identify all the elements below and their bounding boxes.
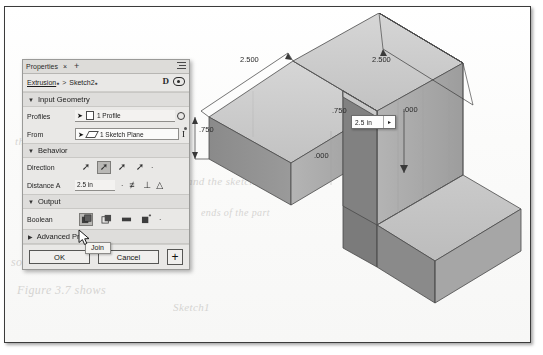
direction-asymmetric-icon[interactable]: ➚ [133, 161, 147, 174]
direction-symmetric-icon[interactable]: ➚ [115, 161, 129, 174]
cursor-icon: ➤ [78, 131, 84, 138]
breadcrumb: Extrusion● > Sketch2● D [23, 74, 189, 92]
chevron-down-icon[interactable]: ▼ [28, 148, 34, 154]
profiles-field[interactable]: ➤ 1 Profile [75, 110, 175, 122]
direction-one-side-icon[interactable]: ➚ [79, 161, 93, 174]
boolean-new-body-icon[interactable] [139, 213, 153, 226]
boolean-option-group[interactable]: · [75, 213, 185, 226]
boolean-join-icon[interactable] [79, 213, 93, 226]
row-label-distance-a: Distance A [27, 182, 75, 189]
from-status-dot [184, 127, 187, 130]
visibility-eye-icon[interactable] [173, 77, 185, 86]
text-cursor-icon[interactable]: I [182, 130, 185, 139]
ok-button[interactable]: OK [29, 250, 90, 264]
dimension-label-bottom-origin[interactable]: .000 [314, 151, 329, 160]
section-label-advanced-properties: Advanced Pro [37, 232, 84, 241]
row-label-direction: Direction [27, 164, 75, 171]
chevron-right-icon[interactable]: ▶ [28, 233, 33, 240]
dimension-label-left-height[interactable]: .750 [199, 125, 214, 134]
section-header-output[interactable]: ▼ Output [23, 194, 189, 209]
boolean-cut-icon[interactable] [99, 213, 113, 226]
boolean-intersect-icon[interactable] [119, 213, 133, 226]
midplane-icon[interactable]: ≢ [129, 181, 138, 190]
dimension-label-top-right[interactable]: 2.500 [372, 55, 391, 64]
distance-dropdown-icon[interactable]: · [121, 182, 123, 189]
distance-a-input[interactable]: 2.5 in [75, 180, 115, 191]
mouse-cursor-icon [78, 229, 91, 247]
section-label-output: Output [38, 197, 61, 206]
properties-panel[interactable]: Properties × + Extrusion● > Sketch2● D ▼… [22, 59, 190, 270]
breadcrumb-icons: D [163, 76, 186, 87]
add-tab-icon[interactable]: + [74, 62, 79, 71]
breadcrumb-parent-marker: ● [56, 80, 59, 86]
row-direction[interactable]: Direction ➚ ➚ ➚ ➚ · [23, 158, 189, 176]
dimension-label-right-offset[interactable]: .000 [403, 105, 418, 114]
sketch-plane-icon [85, 131, 99, 138]
row-from[interactable]: From ➤ 1 Sketch Plane I [23, 125, 189, 143]
row-label-boolean: Boolean [27, 216, 75, 223]
distance-modifier-icons[interactable]: ≢ ⊥ △ [129, 181, 163, 190]
row-label-profiles: Profiles [27, 113, 75, 120]
section-header-behavior[interactable]: ▼ Behavior [23, 143, 189, 158]
section-label-behavior: Behavior [38, 146, 68, 155]
direction-option-group[interactable]: ➚ ➚ ➚ ➚ · [75, 161, 185, 174]
row-label-from: From [27, 131, 75, 138]
from-field[interactable]: ➤ 1 Sketch Plane [75, 128, 179, 140]
row-profiles[interactable]: Profiles ➤ 1 Profile [23, 107, 189, 125]
direction-two-side-icon[interactable]: ➚ [97, 161, 111, 174]
add-button[interactable]: + [167, 249, 183, 265]
section-label-input-geometry: Input Geometry [38, 95, 90, 104]
from-value: 1 Sketch Plane [100, 131, 144, 138]
breadcrumb-child-marker: ● [95, 80, 98, 86]
profile-sheet-icon [86, 111, 94, 120]
tab-properties[interactable]: Properties [26, 63, 58, 70]
dimension-label-inner-depth[interactable]: .750 [332, 106, 347, 115]
panel-tab-bar[interactable]: Properties × + [23, 60, 189, 74]
close-icon[interactable]: × [63, 63, 67, 70]
direction-more-icon[interactable]: · [151, 164, 153, 171]
profiles-value: 1 Profile [97, 112, 121, 119]
row-distance-a[interactable]: Distance A 2.5 in · ≢ ⊥ △ [23, 176, 189, 194]
row-boolean[interactable]: Boolean · [23, 209, 189, 229]
perpendicular-icon[interactable]: ⊥ [143, 181, 151, 190]
inline-dropdown-arrow-icon[interactable]: ▸ [384, 116, 395, 128]
display-mode-icon[interactable]: D [163, 76, 170, 87]
breadcrumb-separator: > [62, 79, 66, 86]
boolean-more-icon[interactable]: · [159, 216, 161, 223]
dimension-label-top-left[interactable]: 2.500 [240, 55, 259, 64]
cad-viewport[interactable]: 2.500 2.500 .750 .750 .000 .000 [191, 13, 536, 333]
section-header-input-geometry[interactable]: ▼ Input Geometry [23, 92, 189, 107]
breadcrumb-extrusion[interactable]: Extrusion [27, 79, 56, 86]
taper-icon[interactable]: △ [156, 181, 163, 190]
gear-icon[interactable] [177, 112, 185, 120]
hamburger-icon[interactable] [177, 62, 186, 70]
breadcrumb-sketch[interactable]: Sketch2 [69, 79, 94, 86]
inline-distance-value: 2.5 in [352, 119, 383, 126]
cursor-icon: ➤ [77, 112, 83, 119]
figure-frame: the material is added to and the sketch … [4, 6, 531, 343]
chevron-down-icon[interactable]: ▼ [28, 97, 34, 103]
inline-distance-input[interactable]: 2.5 in ▸ [351, 115, 396, 129]
chevron-down-icon[interactable]: ▼ [28, 199, 34, 205]
